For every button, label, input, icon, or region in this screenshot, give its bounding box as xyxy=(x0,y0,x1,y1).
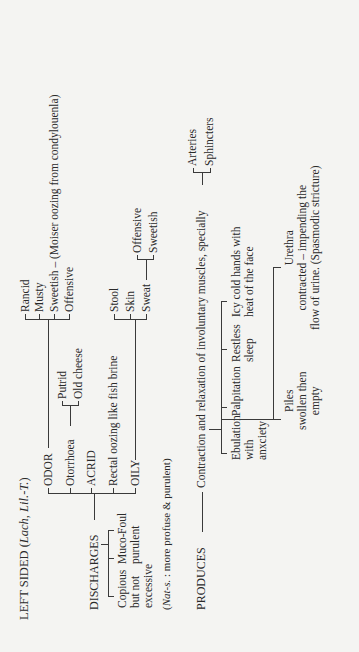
acrid-label: ACRID xyxy=(85,450,98,486)
sweat-item: Sweetish xyxy=(147,211,160,253)
note-remedy: Nat-s. xyxy=(160,580,172,607)
oily-connector xyxy=(135,320,136,460)
odor-item: Sweetish – (Moiser oozing from condyloue… xyxy=(48,95,61,313)
specially-bracket xyxy=(193,172,211,173)
tick-offensive xyxy=(69,314,70,320)
tick-arteries xyxy=(193,168,194,173)
effect-ebulation: Ebulation with anxciety xyxy=(230,415,269,460)
tick-musty xyxy=(39,314,40,320)
odor-item: Musty xyxy=(33,283,46,312)
rotated-document-page: LEFT SIDED (Lach, Lil.-T.) DISCHARGES OD… xyxy=(0,0,359,652)
sub-effect-urethra: Urethra contracted – impending the flow … xyxy=(283,166,322,330)
effects-stem xyxy=(209,429,221,430)
specially-connector xyxy=(202,173,203,185)
tick-otorrhoea xyxy=(70,488,71,494)
tick-icy xyxy=(221,301,227,302)
title-text: LEFT SIDED ( xyxy=(17,543,31,620)
tick-odor xyxy=(48,488,49,494)
tick-old-cheese xyxy=(78,401,79,406)
ebulation-divider xyxy=(221,419,273,420)
otorrhoea-bracket xyxy=(62,405,79,406)
effect-restless-sleep: Restless sleep xyxy=(230,324,256,362)
oily-item: Skin xyxy=(124,291,137,312)
rectal-label: Rectal oozing like fish brine xyxy=(107,356,120,486)
tick-sweat xyxy=(146,314,147,320)
tick-sphincters xyxy=(210,168,211,173)
effect-line: Icy cold hands with xyxy=(230,227,243,317)
quality-line: Copious xyxy=(116,564,129,608)
tick-oily xyxy=(135,488,136,494)
tick-copious xyxy=(108,596,114,597)
quality-line: Foul xyxy=(116,513,129,534)
effect-line: anxciety xyxy=(256,415,269,460)
discharges-label: DISCHARGES xyxy=(88,535,101,610)
tick-palpitation xyxy=(221,407,227,408)
title-close: ) xyxy=(17,477,31,481)
tick-rectal xyxy=(113,488,114,494)
otorrhoea-label: Otorrhoea xyxy=(64,439,77,486)
effect-line: heat of the face xyxy=(243,227,256,317)
specially-item: Arteries xyxy=(186,129,199,166)
effect-line: Palpitation xyxy=(230,366,243,416)
produces-connector xyxy=(202,492,203,532)
effect-line: Ebulation xyxy=(230,415,243,460)
sub-effect-line: swollen then xyxy=(296,372,309,430)
otorrhoea-item: Putrid xyxy=(56,371,69,399)
tick-ebulation xyxy=(221,453,227,454)
tick-urethra xyxy=(273,267,281,268)
quality-copious: Copious but not excessive xyxy=(116,564,155,608)
sub-effects-bracket xyxy=(273,268,274,420)
oily-label: OILY xyxy=(129,460,142,486)
sweat-item: Offensive xyxy=(131,208,144,253)
title-remedies: Lach, Lil.-T. xyxy=(17,482,31,544)
qualities-stem xyxy=(101,544,108,545)
odor-item: Rancid xyxy=(19,279,32,312)
nat-s-note: (Nat-s. : more profuse & purulent) xyxy=(160,458,173,610)
effects-bracket xyxy=(221,302,222,454)
tick-stool xyxy=(114,314,115,320)
quality-line: excessive xyxy=(142,564,155,608)
odor-bracket xyxy=(25,319,69,320)
quality-line: purulent xyxy=(129,526,142,564)
tick-foul xyxy=(108,530,114,531)
produces-main: Contraction and relaxation of involuntar… xyxy=(195,210,208,488)
effect-palpitation: Palpitation xyxy=(230,366,243,416)
discharges-connector xyxy=(94,494,95,520)
note-open: ( xyxy=(160,606,172,610)
tick-piles xyxy=(273,419,281,420)
tick-rancid xyxy=(25,314,26,320)
odor-label: ODOR xyxy=(42,453,55,486)
oily-item: Stool xyxy=(108,288,121,312)
effect-line: Restless xyxy=(230,324,243,362)
tick-acrid xyxy=(91,488,92,494)
quality-foul: Foul xyxy=(116,513,129,534)
effect-line: with xyxy=(243,415,256,460)
qualities-bracket xyxy=(108,531,109,597)
sub-effect-piles: Piles swollen then empty xyxy=(283,372,322,430)
sweat-connector xyxy=(146,260,147,280)
tick-restless xyxy=(221,349,227,350)
tick-skin xyxy=(130,314,131,320)
oily-item: Sweat xyxy=(140,284,153,312)
sweat-bracket xyxy=(137,259,154,260)
effect-icy-cold-hands: Icy cold hands with heat of the face xyxy=(230,227,256,317)
tick-sweetish2 xyxy=(153,255,154,260)
sub-effect-line: flow of urine. (Spasmodic stricture) xyxy=(309,166,322,330)
sub-effect-line: Piles xyxy=(283,372,296,430)
effect-line: sleep xyxy=(243,324,256,362)
tick-sweetish xyxy=(54,314,55,320)
sub-effect-line: Urethra xyxy=(283,166,296,330)
odor-connector xyxy=(48,320,49,448)
tick-muco xyxy=(108,558,114,559)
tick-offensive2 xyxy=(137,255,138,260)
odor-item: Offensive xyxy=(63,267,76,312)
otorrhoea-connector xyxy=(70,406,71,426)
quality-line: but not xyxy=(129,564,142,608)
otorrhoea-item: Old cheese xyxy=(72,348,85,399)
produces-label: PRODUCES xyxy=(195,547,208,610)
tick-putrid xyxy=(62,401,63,406)
sub-effect-line: contracted – impending the xyxy=(296,166,309,330)
page-title: LEFT SIDED (Lach, Lil.-T.) xyxy=(18,477,31,620)
sub-effect-line: empty xyxy=(309,372,322,430)
specially-item: Sphincters xyxy=(203,117,216,166)
